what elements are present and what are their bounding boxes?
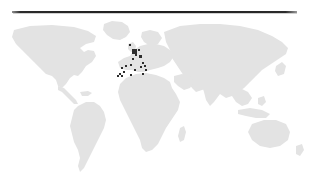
map-marker (145, 69, 147, 71)
map-marker (129, 44, 131, 46)
map-marker (117, 75, 119, 77)
map-marker (132, 49, 137, 54)
map-marker (138, 49, 140, 51)
map-marker (119, 73, 121, 75)
map-marker (135, 54, 137, 56)
map-marker (144, 65, 146, 67)
map-marker (142, 62, 144, 64)
map-marker (125, 65, 127, 67)
map-marker (121, 75, 123, 77)
map-marker (139, 55, 142, 58)
marker-layer (0, 18, 310, 180)
map-marker (121, 67, 123, 69)
horizontal-rule-shadow (13, 13, 297, 14)
map-marker (130, 74, 132, 76)
world-map-figure (0, 0, 310, 190)
map-marker (134, 69, 136, 71)
map-marker (130, 64, 132, 66)
map-marker (123, 71, 125, 73)
map-marker (142, 73, 144, 75)
map-marker (140, 66, 142, 68)
map-marker (132, 58, 134, 60)
